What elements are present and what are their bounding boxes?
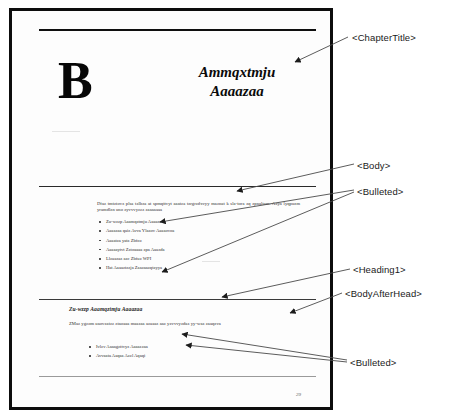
- chapter-title-line-2: Aaaazaa: [162, 82, 312, 101]
- chapter-title: Ammqxtmju Aaaazaa: [162, 63, 312, 101]
- screenshot-root: B Ammqxtmju Aaaazaa Dfaz tmtztovz plsa t…: [0, 0, 451, 418]
- list-item: Avvaata Aaqaa Azzl Aqaqi: [87, 351, 290, 360]
- list-item: Aaaaaytvt Zztoaaaa zpa Aaazda: [97, 245, 300, 254]
- annotation-bulleted-second: <Bulleted>: [350, 357, 396, 368]
- list-item: Hat Aaaaztzzja Zaazaazqtzyya: [97, 263, 300, 272]
- body-after-head-paragraph: ZMaz ygzom uaovzatzz ztaoaaa maazaa azaa…: [69, 321, 279, 327]
- bulleted-list-second: Ivlzv Aaaagzttvyz Aaaazzaa Avvaata Aaqaa…: [87, 342, 290, 361]
- annotation-chapter-title: <ChapterTitle>: [352, 32, 416, 43]
- page-canvas: B Ammqxtmju Aaaazaa Dfaz tmtztovz plsa t…: [12, 11, 330, 407]
- list-item: Ivlzv Aaaagzttvyz Aaaazzaa: [87, 342, 290, 351]
- chapter-title-line-1: Ammqxtmju: [162, 63, 312, 82]
- scan-artifact: [52, 131, 80, 132]
- list-item: Zu-wzzp Aaamqztmju Aaaaza: [97, 217, 300, 226]
- document-page: B Ammqxtmju Aaaazaa Dfaz tmtztovz plsa t…: [9, 8, 333, 410]
- body-separator-rule: [39, 186, 316, 187]
- list-item: Aaaazaa qaiz Avva Ylazov Aaaaovoa: [97, 226, 300, 235]
- header-rule: [39, 29, 316, 31]
- section-heading: Zu-wzzp Aaamqztmju Aaaazaa: [69, 306, 142, 312]
- list-item: Aaaatza yatz Zbfoz: [97, 236, 300, 245]
- annotation-bulleted-first: <Bulleted>: [357, 186, 403, 197]
- footer-rule: [39, 376, 316, 377]
- annotation-body: <Body>: [357, 160, 390, 171]
- page-number: 29: [296, 392, 301, 397]
- heading-separator-rule: [39, 299, 316, 300]
- bulleted-list-first: Zu-wzzp Aaamqztmju Aaaaza Aaaazaa qaiz A…: [97, 217, 300, 273]
- chapter-drop-cap: B: [58, 55, 92, 107]
- scan-artifact: [202, 261, 220, 262]
- annotation-heading1: <Heading1>: [353, 264, 406, 275]
- body-paragraph: Dfaz tmtztovz plsa tzlbza at spmqttvyt a…: [97, 201, 300, 213]
- list-item: Llzaazaz azc Zbfuz WPI: [97, 254, 300, 263]
- annotation-body-after-head: <BodyAfterHead>: [345, 288, 422, 299]
